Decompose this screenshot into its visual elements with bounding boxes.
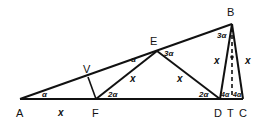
- length-BC: x: [244, 55, 251, 66]
- label-D: D: [214, 107, 222, 119]
- angle-F: 2α: [107, 90, 118, 99]
- angle-DT: 4α: [220, 91, 230, 98]
- length-FE: x: [129, 73, 136, 84]
- length-ED: x: [176, 73, 183, 84]
- label-C: C: [239, 107, 247, 119]
- length-BD: x: [213, 55, 220, 66]
- midpoint-dot: [230, 55, 234, 59]
- length-AF: x: [57, 107, 64, 118]
- segment-ED: [157, 51, 220, 99]
- angle-D: 2α: [198, 90, 209, 99]
- segment-BC: [232, 24, 243, 99]
- geometry-diagram: A F D T C B E V α α 2α 3α 2α 3α 4α 4α x …: [0, 0, 260, 129]
- label-B: B: [227, 6, 234, 18]
- angle-TC: 4α: [232, 91, 242, 98]
- label-V: V: [83, 63, 91, 75]
- angle-A: α: [42, 90, 48, 99]
- angle-E-left: α: [131, 55, 137, 64]
- label-T: T: [227, 107, 234, 119]
- segment-FE: [96, 51, 157, 99]
- label-A: A: [16, 107, 24, 119]
- segment-AB: [20, 24, 232, 99]
- label-E: E: [150, 35, 157, 47]
- angle-B: 3α: [217, 31, 227, 40]
- label-F: F: [92, 107, 99, 119]
- angle-E-right: 3α: [164, 49, 174, 58]
- segment-FV: [88, 77, 96, 99]
